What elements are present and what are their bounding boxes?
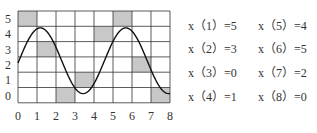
x-tick-label: 7 [148, 109, 154, 124]
y-tick-label: 4 [5, 27, 11, 42]
equation-x2: x（2）=3 [188, 39, 237, 57]
shaded-cell [94, 26, 113, 41]
y-tick-label: 0 [5, 89, 11, 104]
equation-x5: x（5）=4 [258, 16, 307, 34]
shaded-cell [75, 72, 94, 87]
equation-x7: x（7）=2 [258, 63, 307, 81]
y-tick-label: 1 [5, 73, 11, 88]
shaded-cell [37, 42, 56, 57]
x-tick-label: 4 [91, 109, 97, 124]
y-tick-label: 5 [5, 12, 11, 27]
x-tick-label: 3 [72, 109, 78, 124]
x-tick-label: 5 [110, 109, 116, 124]
x-tick-label: 8 [167, 109, 173, 124]
shaded-cell [151, 88, 170, 103]
y-tick-label: 2 [5, 58, 11, 73]
x-tick-label: 6 [129, 109, 135, 124]
equation-x6: x（6）=5 [258, 39, 307, 57]
grid-lines [18, 11, 170, 103]
y-tick-label: 3 [5, 43, 11, 58]
equation-x3: x（3）=0 [188, 63, 237, 81]
x-tick-label: 0 [15, 109, 21, 124]
shaded-cell [113, 11, 132, 26]
equation-x8: x（8）=0 [258, 87, 307, 105]
x-tick-label: 1 [34, 109, 40, 124]
shaded-cell [56, 88, 75, 103]
shaded-cell [18, 11, 37, 26]
x-tick-label: 2 [53, 109, 59, 124]
equation-x1: x（1）=5 [188, 16, 237, 34]
equation-x4: x（4）=1 [188, 87, 237, 105]
